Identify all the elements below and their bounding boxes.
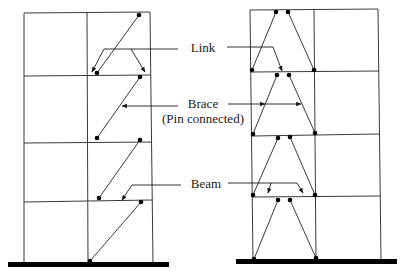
pin-joint-icon xyxy=(288,198,293,203)
pin-joint-icon xyxy=(138,138,143,143)
beam-leader-right xyxy=(228,183,303,193)
left-frame-brace-4 xyxy=(97,15,139,73)
right-frame-brace-4-left xyxy=(252,12,276,70)
pin-joint-icon xyxy=(288,135,293,140)
left-frame-brace-3 xyxy=(97,77,140,138)
right-frame-brace-3-left xyxy=(253,75,277,134)
pin-joint-icon xyxy=(286,10,291,15)
pin-joint-icon xyxy=(139,200,144,205)
beam-leader-left xyxy=(122,185,181,200)
pin-joint-icon xyxy=(275,73,280,78)
left-frame-brace-1 xyxy=(90,202,141,261)
right-frame-brace-2-left xyxy=(253,138,278,195)
pin-joint-icon xyxy=(137,13,142,18)
right-frame-roof-beam xyxy=(250,9,378,10)
link-leader-left xyxy=(92,49,178,72)
pin-joint-icon xyxy=(312,68,317,73)
beam-leader-right-2 xyxy=(268,183,271,193)
pin-joint-icon xyxy=(276,198,281,203)
pin-joint-icon xyxy=(274,10,279,15)
braced-frame-diagram: Link Brace (Pin connected) Beam xyxy=(0,0,408,280)
link-leader-right xyxy=(227,47,282,71)
pin-joint-icon xyxy=(276,136,281,141)
beam-label: Beam xyxy=(191,176,221,191)
pin-joint-icon xyxy=(313,193,318,198)
left-frame xyxy=(24,12,153,264)
brace-sublabel: (Pin connected) xyxy=(162,111,244,126)
right-frame-brace-2-right xyxy=(290,137,315,195)
pin-joint-icon xyxy=(251,132,256,137)
brace-label: Brace xyxy=(188,96,219,111)
left-frame-brace-2 xyxy=(99,140,140,198)
pin-joint-icon xyxy=(138,75,143,80)
right-frame-ground xyxy=(236,259,397,264)
left-frame-joints xyxy=(88,13,144,264)
link-label: Link xyxy=(191,40,216,55)
left-frame-floor-3-beam xyxy=(24,75,151,76)
left-frame-floor-2-beam xyxy=(24,142,152,143)
pin-joint-icon xyxy=(313,131,318,136)
right-frame-brace-1-right xyxy=(290,200,316,258)
pin-joint-icon xyxy=(250,68,255,73)
left-frame-roof-beam xyxy=(24,12,150,13)
right-frame-brace-4-right xyxy=(288,12,314,70)
left-frame-column-2 xyxy=(87,13,88,264)
link-leader-left-2 xyxy=(131,49,145,72)
right-frame-column-2 xyxy=(314,10,316,262)
right-frame-brace-1-left xyxy=(254,200,278,259)
pin-joint-icon xyxy=(95,136,100,141)
pin-joint-icon xyxy=(251,193,256,198)
pin-joint-icon xyxy=(95,71,100,76)
pin-joint-icon xyxy=(287,73,292,78)
left-frame-ground xyxy=(8,262,169,267)
pin-joint-icon xyxy=(97,196,102,201)
left-frame-column-3 xyxy=(150,12,153,264)
